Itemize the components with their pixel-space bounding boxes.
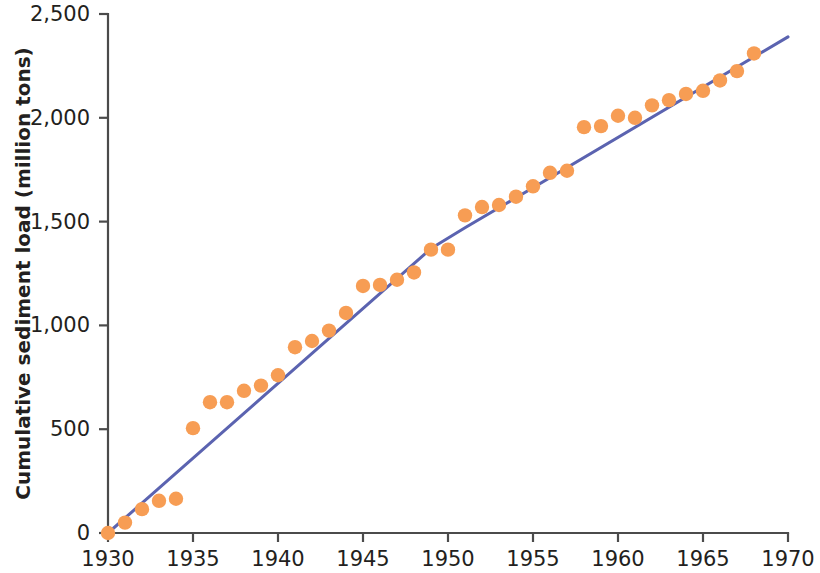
data-point (424, 242, 438, 256)
x-tick-label: 1970 (761, 547, 814, 571)
data-point (186, 421, 200, 435)
data-point (118, 515, 132, 529)
x-tick-label: 1945 (336, 547, 389, 571)
y-tick-label: 1,500 (30, 210, 90, 234)
x-tick-label: 1955 (506, 547, 559, 571)
data-point (628, 111, 642, 125)
data-point (288, 340, 302, 354)
data-point (577, 120, 591, 134)
chart-figure: 05001,0001,5002,0002,500 193019351940194… (0, 0, 820, 573)
data-point (458, 208, 472, 222)
data-point (339, 306, 353, 320)
data-point-group (101, 46, 761, 540)
data-point (356, 279, 370, 293)
trend-line (108, 37, 788, 533)
data-point (101, 526, 115, 540)
x-tick-label: 1950 (421, 547, 474, 571)
data-point (747, 46, 761, 60)
y-tick-label: 500 (50, 417, 90, 441)
y-tick-label: 1,000 (30, 313, 90, 337)
y-axis-title: Cumulative sediment load (million tons) (11, 47, 35, 499)
data-point (135, 502, 149, 516)
data-point (611, 109, 625, 123)
data-point (271, 368, 285, 382)
data-point (390, 273, 404, 287)
x-tick-label: 1935 (166, 547, 219, 571)
data-point (254, 378, 268, 392)
data-point (169, 492, 183, 506)
x-tick-label: 1930 (81, 547, 134, 571)
x-tick-label: 1960 (591, 547, 644, 571)
data-point (475, 200, 489, 214)
data-point (373, 278, 387, 292)
x-axis-ticks: 193019351940194519501955196019651970 (81, 533, 814, 571)
data-point (220, 395, 234, 409)
trend-line-group (108, 37, 788, 533)
data-point (713, 73, 727, 87)
data-point (441, 242, 455, 256)
data-point (237, 384, 251, 398)
data-point (305, 334, 319, 348)
data-point (645, 98, 659, 112)
data-point (730, 64, 744, 78)
data-point (407, 265, 421, 279)
y-tick-label: 2,500 (30, 2, 90, 26)
data-point (509, 189, 523, 203)
x-tick-label: 1940 (251, 547, 304, 571)
sediment-load-scatter-chart: 05001,0001,5002,0002,500 193019351940194… (0, 0, 820, 573)
data-point (203, 395, 217, 409)
data-point (152, 494, 166, 508)
y-tick-label: 2,000 (30, 106, 90, 130)
x-tick-label: 1965 (676, 547, 729, 571)
data-point (526, 179, 540, 193)
data-point (594, 119, 608, 133)
data-point (696, 84, 710, 98)
data-point (492, 198, 506, 212)
data-point (662, 93, 676, 107)
data-point (679, 87, 693, 101)
data-point (560, 164, 574, 178)
data-point (543, 166, 557, 180)
y-tick-label: 0 (77, 521, 90, 545)
data-point (322, 323, 336, 337)
y-axis-ticks: 05001,0001,5002,0002,500 (30, 2, 108, 545)
